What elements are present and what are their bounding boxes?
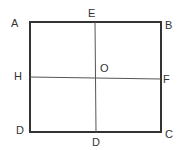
vertical-midline-EO: [95, 22, 96, 132]
label-C: C: [165, 128, 173, 140]
label-D-bottom-mid: D: [92, 136, 100, 148]
label-D-corner: D: [16, 124, 24, 136]
label-F: F: [163, 73, 170, 85]
label-B: B: [165, 19, 172, 31]
label-E: E: [88, 7, 95, 19]
label-A: A: [11, 17, 19, 29]
label-H: H: [14, 70, 22, 82]
square-diagram: A B C D E F H O D: [0, 0, 180, 150]
label-O: O: [100, 62, 109, 74]
